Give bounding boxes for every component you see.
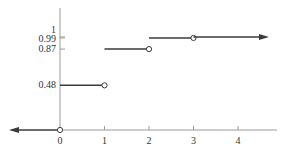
y-tick-label: 0.87 <box>39 43 57 54</box>
x-tick-label: 4 <box>236 135 241 146</box>
y-tick-label: 0.48 <box>39 79 57 90</box>
x-tick-label: 0 <box>58 135 63 146</box>
x-tick-label: 2 <box>147 135 152 146</box>
open-endpoint-icon <box>57 127 62 132</box>
open-endpoint-icon <box>191 35 196 40</box>
open-endpoint-icon <box>146 46 151 51</box>
y-tick-label: 1 <box>51 24 56 35</box>
x-tick-label: 3 <box>191 135 196 146</box>
right-arrow-icon <box>259 34 269 40</box>
axes <box>60 8 277 130</box>
open-endpoint-icon <box>102 83 107 88</box>
step-function-chart: 012340.480.870.991 <box>0 0 288 151</box>
left-arrow-icon <box>9 127 19 133</box>
x-tick-label: 1 <box>102 135 107 146</box>
